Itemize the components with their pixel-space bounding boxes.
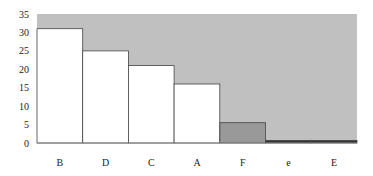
y-tick-label: 5 bbox=[24, 119, 29, 130]
y-tick-label: 0 bbox=[24, 138, 29, 149]
y-tick-label: 25 bbox=[19, 45, 29, 56]
x-label-D: D bbox=[102, 157, 109, 168]
y-tick-label: 10 bbox=[19, 101, 29, 112]
x-axis-labels: BDCAFeE bbox=[57, 157, 338, 168]
x-label-e: e bbox=[286, 157, 291, 168]
x-label-E: E bbox=[331, 157, 337, 168]
bar-B bbox=[37, 29, 83, 143]
bar-A bbox=[174, 84, 220, 143]
x-label-C: C bbox=[148, 157, 155, 168]
y-tick-label: 35 bbox=[19, 9, 29, 20]
bar-F bbox=[220, 123, 266, 143]
x-label-B: B bbox=[57, 157, 64, 168]
y-tick-label: 30 bbox=[19, 27, 29, 38]
y-tick-label: 15 bbox=[19, 82, 29, 93]
bar-chart: 05101520253035 BDCAFeE bbox=[0, 0, 373, 176]
x-label-A: A bbox=[193, 157, 201, 168]
y-tick-label: 20 bbox=[19, 64, 29, 75]
bar-C bbox=[128, 66, 174, 143]
x-label-F: F bbox=[240, 157, 246, 168]
bar-D bbox=[83, 51, 129, 143]
y-axis-ticks: 05101520253035 bbox=[19, 9, 29, 149]
